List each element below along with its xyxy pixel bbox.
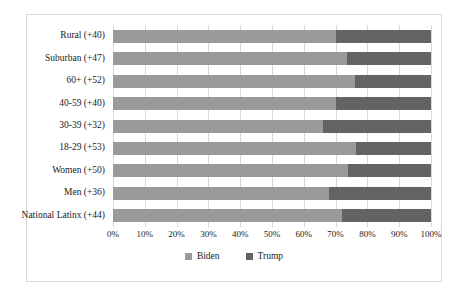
category-label: Rural (+40) <box>60 30 105 41</box>
chart-frame: Rural (+40)Suburban (+47)60+ (+52)40-59 … <box>26 14 442 282</box>
bar-segment-biden <box>113 52 347 65</box>
bar-segment-biden <box>113 120 323 133</box>
bar-segment-trump <box>329 187 431 200</box>
bar-row <box>113 209 431 222</box>
bar-row <box>113 52 431 65</box>
bar-segment-trump <box>323 120 431 133</box>
bar-segment-biden <box>113 164 348 177</box>
legend-item-trump[interactable]: Trump <box>246 251 284 261</box>
category-label: 60+ (+52) <box>67 75 105 86</box>
x-tick-label: 60% <box>296 229 313 239</box>
x-tick-label: 0% <box>107 229 119 239</box>
bar-row <box>113 30 431 43</box>
bar-row <box>113 120 431 133</box>
category-label: Suburban (+47) <box>45 53 105 64</box>
bar-segment-trump <box>355 75 431 88</box>
x-tick-label: 70% <box>327 229 344 239</box>
gridline-100 <box>431 25 432 227</box>
bar-segment-trump <box>356 142 431 155</box>
category-label: Men (+36) <box>64 187 105 198</box>
bar-segment-biden <box>113 142 356 155</box>
bar-row <box>113 142 431 155</box>
bar-row <box>113 75 431 88</box>
category-label: 40-59 (+40) <box>59 98 105 109</box>
bar-segment-trump <box>336 30 431 43</box>
bar-segment-trump <box>347 52 431 65</box>
category-label: National Latinx (+44) <box>22 210 105 221</box>
category-axis-labels: Rural (+40)Suburban (+47)60+ (+52)40-59 … <box>27 25 109 227</box>
x-tick-label: 10% <box>137 229 154 239</box>
x-tick-label: 40% <box>232 229 249 239</box>
x-tick-label: 20% <box>168 229 185 239</box>
x-tick-label: 30% <box>200 229 217 239</box>
bar-segment-biden <box>113 209 342 222</box>
plot-area <box>113 25 431 227</box>
legend-swatch-icon <box>246 253 253 260</box>
bar-row <box>113 164 431 177</box>
legend-label: Biden <box>197 251 220 261</box>
bar-segment-biden <box>113 97 336 110</box>
x-tick-label: 50% <box>264 229 281 239</box>
category-label: 30-39 (+32) <box>59 120 105 131</box>
bar-segment-biden <box>113 187 329 200</box>
bar-row <box>113 187 431 200</box>
bar-segment-trump <box>342 209 431 222</box>
x-tick-label: 100% <box>421 229 442 239</box>
bar-segment-trump <box>336 97 431 110</box>
legend-item-biden[interactable]: Biden <box>185 251 220 261</box>
category-label: Women (+50) <box>52 165 105 176</box>
bar-rows <box>113 25 431 227</box>
x-tick-label: 80% <box>359 229 376 239</box>
legend-swatch-icon <box>185 253 192 260</box>
chart-legend: BidenTrump <box>27 251 441 261</box>
legend-label: Trump <box>258 251 284 261</box>
x-axis-tick-labels: 0%10%20%30%40%50%60%70%80%90%100% <box>113 229 431 245</box>
bar-segment-biden <box>113 30 336 43</box>
bar-row <box>113 97 431 110</box>
x-tick-label: 90% <box>391 229 408 239</box>
bar-segment-trump <box>348 164 431 177</box>
bar-segment-biden <box>113 75 355 88</box>
category-label: 18-29 (+53) <box>59 142 105 153</box>
